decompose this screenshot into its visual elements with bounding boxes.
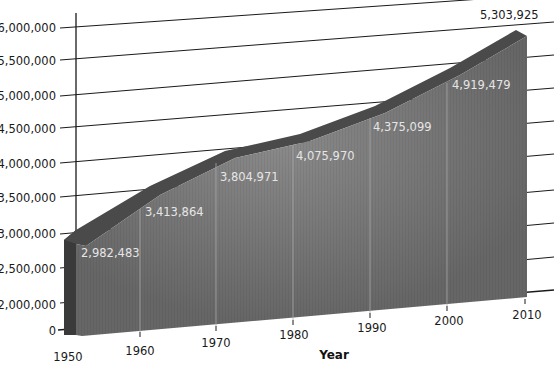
y-axis-labels: 6,000,000 5,500,000 5,000,000 4,500,000 … xyxy=(0,21,56,338)
y-tick-label: 0 xyxy=(49,324,56,338)
x-tick-label: 1980 xyxy=(279,328,308,342)
data-label: 4,375,099 xyxy=(373,120,432,134)
data-label: 3,804,971 xyxy=(220,170,279,184)
data-label: 2,982,483 xyxy=(81,246,140,260)
y-tick-label: 3,000,000 xyxy=(0,227,56,241)
x-axis-title: Year xyxy=(318,348,349,362)
x-tick-label: 2000 xyxy=(434,314,463,328)
x-tick-label: 1990 xyxy=(357,321,386,335)
x-tick-label: 2010 xyxy=(512,308,541,322)
y-tick-label: 6,000,000 xyxy=(0,21,56,35)
x-tick-label: 1960 xyxy=(125,344,154,358)
y-tick-label: 2,500,000 xyxy=(0,262,56,276)
y-tick-label: 4,000,000 xyxy=(0,157,56,171)
y-tick-label: 2,000,000 xyxy=(0,298,56,312)
y-tick-label: 3,500,000 xyxy=(0,191,56,205)
x-tick-label: 1970 xyxy=(201,336,230,350)
x-tick-label: 1950 xyxy=(53,350,82,364)
data-label-2010: 5,303,925 xyxy=(480,8,539,22)
y-tick-label: 5,000,000 xyxy=(0,89,56,103)
y-tick-label: 5,500,000 xyxy=(0,54,56,68)
data-label: 3,413,864 xyxy=(145,205,204,219)
data-label: 4,075,970 xyxy=(296,149,355,163)
population-area-chart: 6,000,000 5,500,000 5,000,000 4,500,000 … xyxy=(0,0,554,373)
y-tick-label: 4,500,000 xyxy=(0,122,56,136)
data-label: 4,919,479 xyxy=(452,78,511,92)
